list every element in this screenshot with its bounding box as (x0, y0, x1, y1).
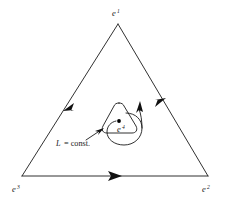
vertex-label-e3-base: e (12, 184, 16, 194)
interior-point-dot (117, 119, 121, 123)
contour-label-value: = const. (64, 139, 90, 148)
vertex-label-e1-sup: 1 (117, 8, 120, 14)
triangle-diagram: e 1 e 2 e 3 e 4 L = const. (0, 0, 226, 199)
vertex-label-e1-base: e (112, 8, 116, 18)
circulation-tail-path (139, 109, 142, 128)
outer-triangle-edges (22, 24, 208, 176)
vertex-label-e2: e 2 (202, 184, 210, 195)
interior-point-label-base: e (117, 124, 121, 134)
interior-point-label-e4: e 4 (117, 124, 125, 135)
contour-label-l-const: L = const. (55, 139, 90, 148)
vertex-label-e2-sup: 2 (207, 184, 210, 190)
contour-label-symbol: L (55, 139, 61, 148)
figure-root: e 1 e 2 e 3 e 4 L = const. (0, 0, 226, 199)
vertex-label-e3: e 3 (12, 184, 20, 195)
vertex-label-e1: e 1 (112, 8, 120, 19)
interior-point-label-sup: 4 (122, 124, 125, 130)
edge-apex-to-bottom-left (22, 24, 118, 176)
arrowhead-left-edge (63, 103, 74, 111)
vertex-label-e3-sup: 3 (16, 184, 20, 190)
vertex-label-e2-base: e (202, 184, 206, 194)
